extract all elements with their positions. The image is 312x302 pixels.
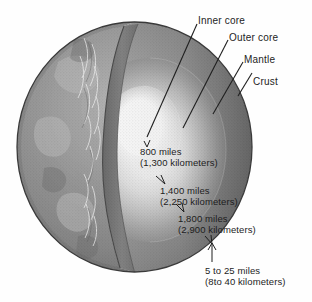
crust-kilometers: (8to 40 kilometers): [205, 276, 286, 287]
callout-inner-core-depth: 800 miles (1,300 kilometers): [140, 146, 218, 168]
leader-crust: [238, 73, 252, 96]
inner-core-miles: 800 miles: [140, 146, 182, 157]
label-inner-core: Inner core: [198, 15, 245, 26]
earth-cutaway-figure: Inner core Outer core Mantle Crust 800 m…: [0, 0, 312, 302]
label-crust: Crust: [253, 76, 278, 87]
label-outer-core: Outer core: [229, 32, 278, 43]
mantle-miles: 1,800 miles: [178, 213, 228, 224]
outer-core-kilometers: (2,250 kilometers): [160, 196, 238, 207]
outer-core-miles: 1,400 miles: [160, 185, 210, 196]
callout-mantle-depth: 1,800 miles (2,900 kilometers): [178, 213, 256, 235]
crust-miles: 5 to 25 miles: [205, 265, 260, 276]
label-mantle: Mantle: [244, 54, 275, 65]
callout-outer-core-depth: 1,400 miles (2,250 kilometers): [160, 185, 238, 207]
mantle-kilometers: (2,900 kilometers): [178, 224, 256, 235]
inner-core-kilometers: (1,300 kilometers): [140, 157, 218, 168]
callout-crust-thickness: 5 to 25 miles (8to 40 kilometers): [205, 265, 286, 287]
